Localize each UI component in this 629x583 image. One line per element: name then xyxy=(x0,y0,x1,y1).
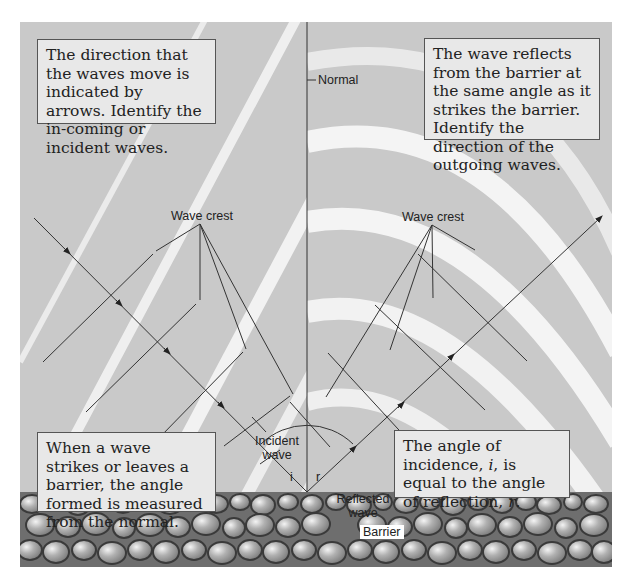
label-line: wave xyxy=(332,506,394,520)
callout-angle-equality: The angle of incidence, i, is equal to t… xyxy=(394,430,570,498)
diagram-panel: The direction that the waves move is ind… xyxy=(20,22,612,567)
label-line: Incident xyxy=(247,434,307,448)
symbol-r: r xyxy=(508,493,515,511)
label-normal: Normal xyxy=(318,73,358,87)
label-incident-wave: Incident wave xyxy=(247,434,307,462)
callout-text: . xyxy=(516,493,521,511)
label-barrier: Barrier xyxy=(360,525,404,539)
label-angle-r: r xyxy=(316,470,320,484)
label-wave-crest-right: Wave crest xyxy=(402,210,464,224)
label-line: wave xyxy=(247,448,307,462)
callout-reflection-direction: The wave reflects from the barrier at th… xyxy=(424,38,600,140)
label-angle-i: i xyxy=(290,470,293,484)
callout-text: The angle of incidence, xyxy=(403,437,501,474)
label-wave-crest-left: Wave crest xyxy=(171,209,233,223)
label-line: Reflected xyxy=(332,492,394,506)
callout-angle-measurement: When a wave strikes or leaves a barrier,… xyxy=(37,432,216,512)
callout-incident-direction: The direction that the waves move is ind… xyxy=(37,39,216,124)
label-reflected-wave: Reflected wave xyxy=(332,492,394,520)
